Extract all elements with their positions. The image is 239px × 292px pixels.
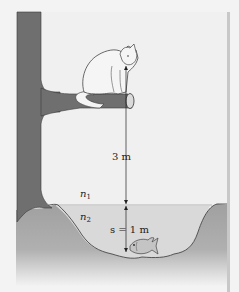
right-border xyxy=(227,12,230,292)
figure-canvas: 3 m n1 n2 s = 1 m xyxy=(0,0,239,292)
water-surface xyxy=(56,204,212,206)
fish-eye xyxy=(133,244,135,246)
cat-fish-refraction-figure: 3 m n1 n2 s = 1 m xyxy=(0,0,239,292)
branch-end xyxy=(126,94,134,109)
label-s-1m: s = 1 m xyxy=(110,224,149,235)
label-3m: 3 m xyxy=(112,151,132,162)
cat-eye xyxy=(127,55,129,57)
